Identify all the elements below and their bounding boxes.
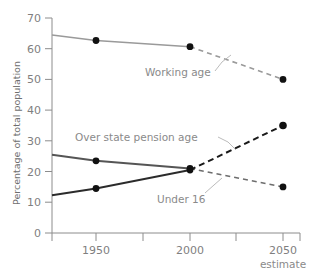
y-tick-label-40: 40 [27, 104, 41, 117]
working-age-marker-2050 [280, 76, 287, 83]
y-axis-tick-labels: 70 60 50 40 30 20 10 0 [27, 12, 41, 240]
series-under-16 [52, 155, 286, 191]
x-axis-ticks [52, 233, 300, 241]
label-under-16: Under 16 [157, 193, 206, 205]
x-axis-tick-labels: 1950 2000 2050 [82, 244, 297, 257]
label-working-age: Working age [145, 66, 211, 78]
over-pension-marker-1950 [93, 185, 100, 192]
y-axis-ticks [45, 18, 52, 233]
over-pension-dashed-line [190, 126, 283, 171]
under-16-marker-2050 [280, 184, 287, 191]
chart-container: 70 60 50 40 30 20 10 0 Percentage of tot… [0, 0, 320, 273]
y-tick-label-10: 10 [27, 196, 41, 209]
y-tick-label-0: 0 [34, 227, 41, 240]
under-16-leader-line [205, 178, 222, 193]
working-age-marker-1950 [93, 37, 100, 44]
y-tick-label-70: 70 [27, 12, 41, 25]
over-pension-solid-line [52, 170, 190, 195]
population-age-line-chart: 70 60 50 40 30 20 10 0 Percentage of tot… [0, 0, 320, 273]
over-pension-marker-2050 [279, 122, 287, 130]
y-axis-title: Percentage of total population [11, 61, 22, 205]
working-age-leader-line [215, 55, 231, 71]
under-16-solid-line [52, 155, 190, 169]
working-age-solid-line [52, 35, 190, 47]
x-tick-label-2050: 2050 [269, 244, 297, 257]
y-tick-label-20: 20 [27, 166, 41, 179]
y-tick-label-50: 50 [27, 73, 41, 86]
over-pension-marker-2000 [187, 167, 194, 174]
working-age-marker-2000 [187, 43, 194, 50]
under-16-dashed-line [190, 169, 283, 187]
over-pension-leader-line [218, 137, 236, 150]
y-tick-label-60: 60 [27, 43, 41, 56]
under-16-marker-1950 [93, 157, 100, 164]
x-tick-label-2000: 2000 [176, 244, 204, 257]
label-over-state-pension-age: Over state pension age [75, 131, 198, 143]
y-tick-label-30: 30 [27, 135, 41, 148]
x-tick-label-1950: 1950 [82, 244, 110, 257]
x-axis-estimate-note: estimate [260, 258, 306, 270]
